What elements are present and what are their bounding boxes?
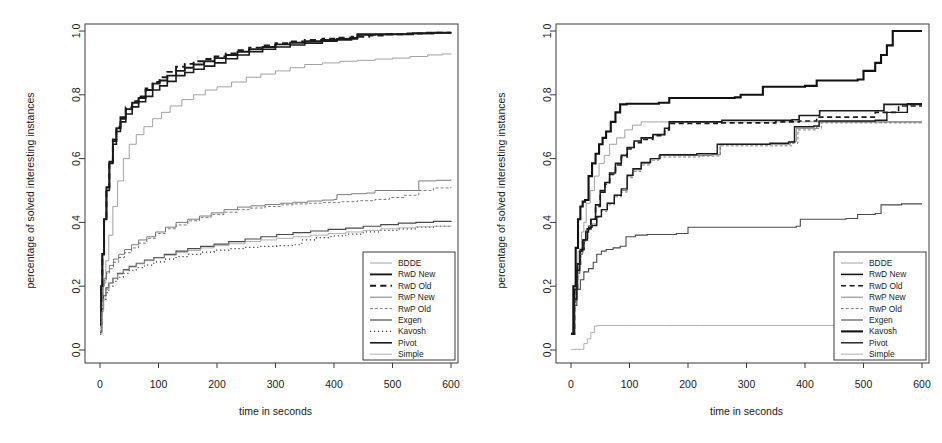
y-tick-label: 0.4: [70, 215, 82, 230]
legend-label-rwp-new: RwP New: [398, 292, 436, 302]
x-axis-title: time in seconds: [710, 405, 783, 417]
legend-label-simple: Simple: [398, 349, 424, 359]
chart-svg-left: 0.00.20.40.60.81.00100200300400500600tim…: [0, 0, 471, 443]
x-tick-label: 500: [384, 378, 402, 390]
y-tick-label: 1.0: [70, 24, 82, 39]
legend[interactable]: BDDERwD NewRwD OldRwP NewRwP OldExgenKav…: [363, 252, 455, 360]
x-tick-label: 600: [442, 378, 460, 390]
x-tick-label: 600: [913, 378, 931, 390]
y-tick-label: 0.6: [70, 151, 82, 166]
x-tick-label: 200: [679, 378, 697, 390]
legend-label-rwd-new: RwD New: [869, 269, 907, 279]
figure-root: 0.00.20.40.60.81.00100200300400500600tim…: [0, 0, 942, 443]
x-tick-label: 0: [97, 378, 103, 390]
x-tick-label: 400: [796, 378, 814, 390]
legend-label-rwp-old: RwP Old: [398, 304, 431, 314]
y-tick-label: 0.0: [541, 343, 553, 358]
x-axis-title: time in seconds: [239, 405, 312, 417]
legend-label-bdde: BDDE: [398, 258, 422, 268]
x-tick-label: 100: [621, 378, 639, 390]
legend-label-kavosh: Kavosh: [869, 326, 897, 336]
y-axis-title: percentage of solved interesting instanc…: [24, 92, 36, 288]
y-tick-label: 0.8: [70, 87, 82, 102]
legend-label-rwd-new: RwD New: [398, 269, 436, 279]
y-tick-label: 1.0: [541, 24, 553, 39]
x-tick-label: 200: [208, 378, 226, 390]
legend-label-kavosh: Kavosh: [398, 326, 426, 336]
chart-svg-right: 0.00.20.40.60.81.00100200300400500600tim…: [471, 0, 942, 443]
y-axis-title: percentage of solved interesting instanc…: [495, 92, 507, 288]
legend-label-pivot: Pivot: [869, 338, 888, 348]
legend-label-rwd-old: RwD Old: [398, 281, 432, 291]
chart-panel-left: 0.00.20.40.60.81.00100200300400500600tim…: [0, 0, 471, 443]
x-tick-label: 300: [738, 378, 756, 390]
x-tick-label: 0: [568, 378, 574, 390]
y-tick-label: 0.8: [541, 87, 553, 102]
legend-label-bdde: BDDE: [869, 258, 893, 268]
legend-label-simple: Simple: [869, 349, 895, 359]
y-tick-label: 0.2: [70, 279, 82, 294]
legend-label-exgen: Exgen: [398, 315, 422, 325]
legend-label-rwp-new: RwP New: [869, 292, 907, 302]
y-tick-label: 0.2: [541, 279, 553, 294]
x-tick-label: 500: [855, 378, 873, 390]
legend-label-rwp-old: RwP Old: [869, 304, 902, 314]
legend-label-exgen: Exgen: [869, 315, 893, 325]
chart-panel-right: 0.00.20.40.60.81.00100200300400500600tim…: [471, 0, 942, 443]
x-tick-label: 400: [325, 378, 343, 390]
x-tick-label: 100: [150, 378, 168, 390]
y-tick-label: 0.6: [541, 151, 553, 166]
x-tick-label: 300: [267, 378, 285, 390]
legend-label-rwd-old: RwD Old: [869, 281, 903, 291]
y-tick-label: 0.0: [70, 343, 82, 358]
y-tick-label: 0.4: [541, 215, 553, 230]
legend[interactable]: BDDERwD NewRwD OldRwP NewRwP OldExgenKav…: [834, 252, 926, 360]
legend-label-pivot: Pivot: [398, 338, 417, 348]
